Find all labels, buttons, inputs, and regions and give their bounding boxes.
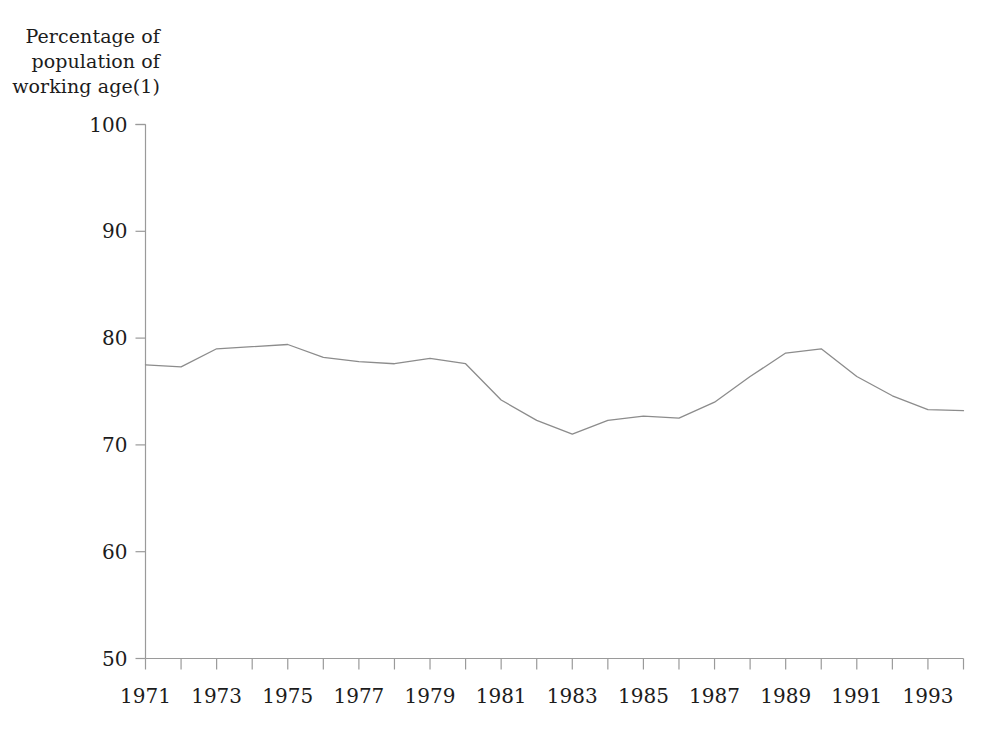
x-axis-tick-label: 1973 xyxy=(191,686,242,706)
x-axis-tick-label: 1971 xyxy=(120,686,171,706)
axis-lines xyxy=(136,125,964,659)
x-axis-ticks xyxy=(146,659,964,670)
x-axis-tick-label: 1985 xyxy=(618,686,669,706)
x-axis-tick-label: 1979 xyxy=(405,686,456,706)
x-axis-tick-label: 1993 xyxy=(902,686,953,706)
y-axis-tick-label: 80 xyxy=(60,328,128,348)
y-axis-tick-label: 60 xyxy=(60,542,128,562)
y-axis-tick-label: 100 xyxy=(60,115,128,135)
y-axis-tick-label: 90 xyxy=(60,221,128,241)
x-axis-tick-label: 1991 xyxy=(831,686,882,706)
data-series-line xyxy=(146,345,964,435)
y-axis-tick-label: 70 xyxy=(60,435,128,455)
x-axis-tick-label: 1975 xyxy=(262,686,313,706)
plot-area xyxy=(0,0,1006,742)
x-axis-tick-label: 1983 xyxy=(547,686,598,706)
y-axis-tick-label: 50 xyxy=(60,649,128,669)
x-axis-tick-label: 1981 xyxy=(476,686,527,706)
y-axis-ticks xyxy=(136,125,146,659)
x-axis-tick-label: 1977 xyxy=(333,686,384,706)
x-axis-tick-label: 1987 xyxy=(689,686,740,706)
line-chart-figure: Percentage of population of working age(… xyxy=(0,0,1006,742)
x-axis-tick-label: 1989 xyxy=(760,686,811,706)
